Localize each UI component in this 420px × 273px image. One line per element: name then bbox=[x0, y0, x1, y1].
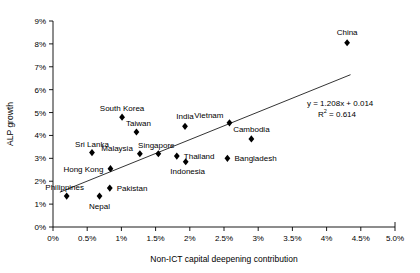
data-point-marker bbox=[248, 135, 254, 142]
data-point-marker bbox=[107, 184, 113, 191]
data-point: Singapore bbox=[138, 141, 175, 158]
data-point-marker bbox=[182, 123, 188, 130]
data-point-label: Philippines bbox=[45, 183, 84, 192]
data-point-label: India bbox=[176, 112, 194, 121]
x-tick-label: 1.5% bbox=[146, 234, 164, 243]
y-tick-label: 0% bbox=[34, 223, 46, 232]
data-point: Thailand bbox=[174, 152, 215, 161]
data-points-layer: PhilippinesNepalPakistanHong KongSri Lan… bbox=[45, 28, 358, 211]
x-tick-label: 2.5% bbox=[215, 234, 233, 243]
x-axis-title: Non-ICT capital deepening contribution bbox=[150, 254, 298, 264]
data-point-marker bbox=[119, 114, 125, 121]
data-point-label: South Korea bbox=[100, 104, 145, 113]
y-tick-label: 4% bbox=[34, 131, 46, 140]
x-tick-label: 5.0% bbox=[386, 234, 404, 243]
data-point-label: Hong Kong bbox=[63, 165, 103, 174]
data-point-label: Cambodia bbox=[233, 125, 270, 134]
y-tick-label: 7% bbox=[34, 63, 46, 72]
chart-canvas: 0%1%2%3%4%5%6%7%8%9% 0%0.5%1%1.5%2%2.5%3… bbox=[0, 0, 420, 273]
data-point: Vietnam bbox=[194, 111, 232, 127]
y-tick-label: 5% bbox=[34, 109, 46, 118]
data-point: Philippines bbox=[45, 183, 84, 200]
data-point-label: Pakistan bbox=[117, 184, 148, 193]
data-point-label: Indonesia bbox=[170, 167, 205, 176]
data-point: Cambodia bbox=[233, 125, 270, 143]
data-point-label: China bbox=[337, 28, 358, 37]
data-point-marker bbox=[64, 193, 70, 200]
data-point: Pakistan bbox=[107, 184, 148, 193]
data-point-marker bbox=[134, 128, 140, 135]
data-point-label: Vietnam bbox=[194, 111, 224, 120]
data-point: Hong Kong bbox=[63, 165, 113, 174]
data-point-label: Thailand bbox=[184, 152, 215, 161]
r-squared-value: = 0.614 bbox=[327, 110, 357, 119]
regression-line bbox=[60, 75, 351, 193]
data-point-marker bbox=[89, 149, 95, 156]
y-tick-label: 8% bbox=[34, 40, 46, 49]
x-tick-label: 3.5% bbox=[283, 234, 301, 243]
data-point: Nepal bbox=[89, 193, 110, 212]
x-tick-label: 4.5% bbox=[352, 234, 370, 243]
data-point-marker bbox=[97, 193, 103, 200]
data-point-marker bbox=[225, 155, 231, 162]
data-point-label: Singapore bbox=[138, 141, 175, 150]
x-tick-label: 3% bbox=[252, 234, 264, 243]
regression-equation-text: y = 1.208x + 0.014 bbox=[307, 99, 374, 108]
x-tick-label: 0.5% bbox=[78, 234, 96, 243]
y-axis-title: ALP growth bbox=[5, 102, 15, 146]
data-point-label: Bangladesh bbox=[234, 154, 276, 163]
y-tick-label: 1% bbox=[34, 200, 46, 209]
data-point: China bbox=[337, 28, 358, 47]
data-point-label: Malaysia bbox=[101, 144, 133, 153]
data-point: Bangladesh bbox=[225, 154, 277, 163]
data-point-label: Nepal bbox=[89, 202, 110, 211]
y-tick-label: 6% bbox=[34, 86, 46, 95]
data-point-marker bbox=[227, 119, 233, 126]
data-point-marker bbox=[137, 150, 143, 157]
x-axis-ticks: 0%0.5%1%1.5%2%2.5%3%3.5%4%4.5%5.0% bbox=[47, 227, 404, 243]
data-point: India bbox=[176, 112, 194, 130]
x-tick-label: 2% bbox=[184, 234, 196, 243]
y-axis-ticks: 0%1%2%3%4%5%6%7%8%9% bbox=[34, 17, 53, 232]
y-tick-label: 3% bbox=[34, 154, 46, 163]
y-tick-label: 2% bbox=[34, 177, 46, 186]
data-point: Taiwan bbox=[126, 119, 151, 136]
data-point-label: Taiwan bbox=[126, 119, 151, 128]
data-point-marker bbox=[344, 39, 350, 46]
x-tick-label: 4% bbox=[321, 234, 333, 243]
y-tick-label: 9% bbox=[34, 17, 46, 26]
x-tick-label: 0% bbox=[47, 234, 59, 243]
scatter-chart: 0%1%2%3%4%5%6%7%8%9% 0%0.5%1%1.5%2%2.5%3… bbox=[0, 0, 420, 273]
data-point-marker bbox=[174, 152, 180, 159]
r-squared-text: R2 = 0.614 bbox=[318, 108, 357, 119]
data-point: Malaysia bbox=[101, 144, 142, 158]
x-tick-label: 1% bbox=[116, 234, 128, 243]
